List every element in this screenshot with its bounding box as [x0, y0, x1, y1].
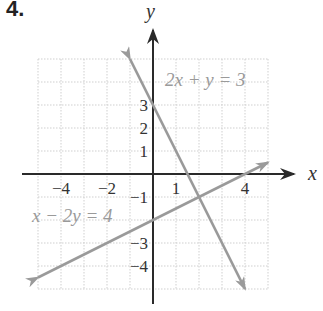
x-tick-label: −4 — [52, 179, 71, 198]
equation-label-2: x − 2y = 4 — [31, 205, 113, 226]
y-tick-label: 2 — [140, 119, 149, 138]
y-tick-label: 1 — [140, 142, 149, 161]
y-tick-label: 3 — [140, 96, 149, 115]
x-tick-label: 4 — [241, 179, 250, 198]
equation-label-1: 2x + y = 3 — [165, 69, 246, 90]
problem-number: 4. — [6, 0, 24, 22]
graph-figure: 4. x y −4−214321−1−3−4 2x + y = 3 x − 2y… — [0, 0, 323, 311]
x-axis-label: x — [307, 162, 317, 184]
y-tick-label: −4 — [130, 257, 149, 276]
y-tick-label: −1 — [130, 188, 148, 207]
x-tick-label: 1 — [172, 179, 181, 198]
x-tick-label: −2 — [98, 179, 116, 198]
coordinate-plane: x y −4−214321−1−3−4 2x + y = 3 x − 2y = … — [0, 0, 323, 311]
y-tick-label: −3 — [130, 234, 148, 253]
y-axis-label: y — [144, 0, 155, 23]
